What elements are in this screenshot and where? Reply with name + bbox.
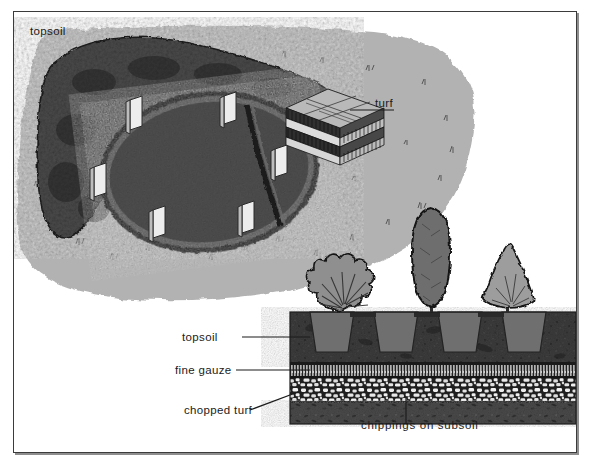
figure-canvas: topsoil turf topsoil fine gauze chopped … [0, 0, 594, 467]
gauze-top-line [290, 362, 576, 365]
plant-spreading-shrub [307, 254, 374, 312]
label-chopped-turf: chopped turf [184, 404, 252, 417]
label-turf: turf [375, 97, 393, 110]
gauze-bottom-line [290, 376, 576, 378]
layer-chippings [290, 378, 576, 402]
label-fine-gauze: fine gauze [175, 364, 232, 377]
layer-fine-gauze [290, 365, 576, 377]
diagram-artwork [14, 12, 576, 452]
label-topsoil-plan: topsoil [30, 25, 66, 38]
plant-conical-shrub [483, 244, 534, 312]
label-chippings-on-subsoil: chippings on subsoil [361, 419, 479, 432]
plant-columnar-conifer [412, 208, 450, 312]
label-topsoil-section: topsoil [182, 331, 218, 344]
illustration-clip-area [14, 12, 576, 452]
plan-view-group [17, 26, 475, 300]
